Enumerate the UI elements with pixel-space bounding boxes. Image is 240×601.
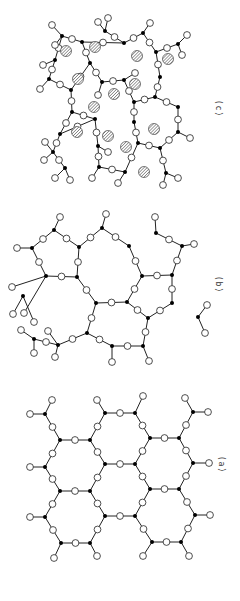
silicon-atom — [146, 316, 150, 320]
silicon-atom — [53, 58, 57, 62]
silicon-atom — [193, 513, 197, 517]
silicon-atom — [44, 274, 48, 278]
silicon-atom — [158, 146, 162, 150]
oxygen-atom — [100, 39, 107, 46]
oxygen-atom — [166, 137, 173, 144]
oxygen-atom — [72, 488, 79, 495]
oxygen-atom — [175, 116, 182, 123]
modifier-ion — [139, 167, 150, 178]
oxygen-atom — [132, 258, 139, 265]
oxygen-atom — [184, 499, 191, 506]
silicon-atom — [43, 465, 47, 469]
silicon-atom — [32, 337, 36, 341]
oxygen-atom — [131, 286, 138, 293]
oxygen-atom — [49, 22, 56, 29]
silicon-atom — [148, 487, 152, 491]
silicon-atom — [132, 120, 136, 124]
silicon-atom — [93, 117, 97, 121]
oxygen-atom — [40, 236, 47, 243]
oxygen-atom — [184, 32, 191, 39]
silicon-atom — [30, 246, 34, 250]
modifier-ion — [61, 46, 72, 57]
oxygen-atom — [163, 99, 170, 106]
silicon-atom — [97, 165, 101, 169]
silicon-atom — [122, 78, 126, 82]
silicon-atom — [123, 170, 127, 174]
oxygen-atom — [49, 501, 56, 508]
silicon-atom — [60, 34, 64, 38]
oxygen-atom — [117, 461, 124, 468]
modifier-ion — [132, 51, 143, 62]
panel-c-label: (c) — [214, 100, 223, 117]
silicon-atom — [150, 540, 154, 544]
silicon-atom — [58, 438, 62, 442]
oxygen-atom — [134, 307, 141, 314]
oxygen-atom — [202, 330, 209, 337]
oxygen-atom — [179, 52, 186, 59]
silicon-atom — [56, 343, 60, 347]
silicon-atom — [96, 144, 100, 148]
oxygen-atom — [89, 175, 96, 182]
oxygen-atom — [63, 120, 70, 127]
silicon-atom — [51, 150, 55, 154]
silicon-atom — [127, 244, 131, 248]
oxygen-atom — [115, 180, 122, 187]
oxygen-atom — [128, 154, 135, 161]
oxygen-atom — [139, 448, 146, 455]
oxygen-atom — [112, 234, 119, 241]
oxygen-atom — [164, 45, 171, 52]
oxygen-atom — [56, 157, 63, 164]
oxygen-atom — [139, 422, 146, 429]
oxygen-atom — [45, 328, 52, 335]
oxygen-atom — [52, 42, 59, 49]
oxygen-atom — [124, 343, 131, 350]
silicon-atom — [47, 77, 51, 81]
silicon-atom — [43, 412, 47, 416]
oxygen-atom — [110, 78, 117, 85]
modifier-ion — [130, 79, 141, 90]
modifier-ion — [103, 131, 114, 142]
modifier-ion — [90, 42, 101, 53]
oxygen-atom — [40, 62, 47, 69]
oxygen-atom — [160, 157, 167, 164]
modifier-ion — [121, 142, 132, 153]
oxygen-atom — [105, 149, 112, 156]
oxygen-atom — [93, 129, 100, 136]
silicon-atom — [100, 80, 104, 84]
oxygen-atom — [36, 259, 43, 266]
modifier-ion — [163, 54, 174, 65]
oxygen-atom — [95, 92, 102, 99]
oxygen-atom — [27, 411, 34, 418]
oxygen-atom — [69, 336, 76, 343]
silicon-atom — [88, 438, 92, 442]
silicon-atom — [164, 171, 168, 175]
oxygen-atom — [94, 526, 101, 533]
oxygen-atom — [140, 553, 147, 560]
oxygen-atom — [169, 286, 176, 293]
oxygen-atom — [146, 358, 153, 365]
silicon-atom — [103, 29, 107, 33]
oxygen-atom — [31, 350, 38, 357]
oxygen-atom — [75, 259, 82, 266]
oxygen-atom — [132, 70, 139, 77]
oxygen-atom — [27, 464, 34, 471]
oxygen-atom — [31, 319, 38, 326]
oxygen-atom — [183, 473, 190, 480]
silicon-atom — [133, 411, 137, 415]
oxygen-atom — [67, 177, 74, 184]
panel-b-label: (b) — [214, 276, 223, 293]
oxygen-atom — [94, 553, 101, 560]
oxygen-atom — [204, 302, 211, 309]
silicon-atom — [85, 331, 89, 335]
oxygen-atom — [69, 36, 76, 43]
panel-c-modified-network — [37, 15, 194, 189]
oxygen-atom — [57, 214, 64, 221]
silicon-atom — [179, 540, 183, 544]
silicon-atom — [103, 411, 107, 415]
silicon-atom — [58, 489, 62, 493]
oxygen-atom — [87, 234, 94, 241]
oxygen-atom — [140, 526, 147, 533]
oxygen-atom — [160, 182, 167, 189]
silicon-atom — [88, 541, 92, 545]
oxygen-atom — [103, 211, 110, 218]
